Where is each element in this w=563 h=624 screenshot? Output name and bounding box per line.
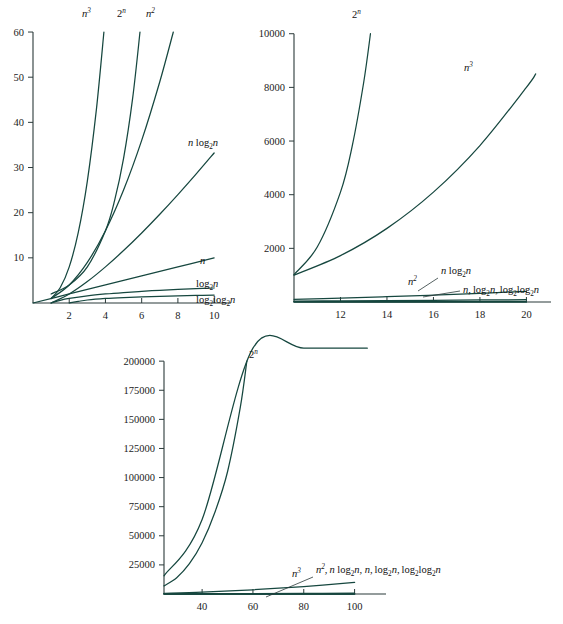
curve-label-n2: n2 bbox=[146, 7, 155, 19]
y-tick-label: 6000 bbox=[264, 136, 285, 147]
y-tick-label: 30 bbox=[14, 162, 25, 173]
y-tick-label: 100000 bbox=[124, 472, 156, 483]
chart-1-axes: 102030405060246810 bbox=[14, 27, 232, 321]
y-tick-label: 10 bbox=[14, 252, 25, 263]
curve-n2 bbox=[51, 32, 173, 298]
x-tick-label: 4 bbox=[103, 310, 109, 321]
y-tick-label: 50000 bbox=[129, 530, 155, 541]
curve-label-nlog2n: nlog2n bbox=[441, 265, 471, 279]
curve-label-group-all: n2,nlog2n, n,log2n,log2log2n bbox=[316, 563, 441, 578]
growth-rate-figure: 102030405060246810 n3 2n n2 nlog2n n log… bbox=[0, 0, 563, 624]
chart-3-curves bbox=[164, 335, 367, 594]
curve-label-group-n-log2n-log2log2n: n,log2n,log2log2n bbox=[463, 284, 539, 298]
curve-label-n3: n3 bbox=[464, 61, 473, 73]
x-tick-label: 100 bbox=[347, 601, 363, 612]
chart-2-axes: 2000400060008000100001214161820 bbox=[259, 28, 551, 320]
curve-n3 bbox=[51, 32, 104, 298]
y-tick-label: 200000 bbox=[124, 356, 156, 367]
y-tick-label: 2000 bbox=[264, 243, 285, 254]
chart-2-svg: 2000400060008000100001214161820 2n n3 n2… bbox=[255, 0, 563, 330]
x-tick-label: 20 bbox=[521, 309, 532, 320]
curve-label-n: n bbox=[200, 255, 205, 266]
curve-2n bbox=[51, 32, 140, 294]
x-tick-label: 10 bbox=[209, 310, 220, 321]
chart-panel-1: 102030405060246810 n3 2n n2 nlog2n n log… bbox=[0, 0, 281, 330]
chart-1-curves bbox=[33, 32, 214, 303]
x-tick-label: 60 bbox=[248, 601, 258, 612]
chart-2-curves bbox=[294, 34, 536, 302]
y-tick-label: 40 bbox=[14, 117, 25, 128]
x-tick-label: 16 bbox=[428, 309, 439, 320]
x-tick-label: 40 bbox=[197, 601, 208, 612]
y-tick-label: 10000 bbox=[259, 28, 285, 39]
y-tick-label: 125000 bbox=[124, 443, 156, 454]
curve-2n bbox=[164, 361, 247, 586]
leader-line-nlog2n bbox=[418, 278, 438, 291]
y-tick-label: 75000 bbox=[129, 501, 155, 512]
curve-label-n3: n3 bbox=[82, 7, 91, 19]
curve-2n bbox=[294, 34, 370, 275]
curve-label-nlog2n: nlog2n bbox=[188, 137, 218, 151]
chart-1-svg: 102030405060246810 n3 2n n2 nlog2n n log… bbox=[0, 0, 281, 330]
curve-label-n2: n2 bbox=[408, 275, 417, 287]
x-tick-label: 6 bbox=[139, 310, 144, 321]
x-tick-label: 12 bbox=[335, 309, 346, 320]
y-tick-label: 150000 bbox=[124, 414, 156, 425]
chart-panel-2: 2000400060008000100001214161820 2n n3 n2… bbox=[255, 0, 563, 330]
y-tick-label: 50 bbox=[14, 72, 25, 83]
curve-label-n3: n3 bbox=[292, 567, 301, 579]
x-tick-label: 8 bbox=[175, 310, 180, 321]
y-tick-label: 60 bbox=[14, 27, 25, 38]
curve-label-2n: 2n bbox=[352, 8, 361, 20]
x-tick-label: 18 bbox=[475, 309, 486, 320]
y-tick-label: 25000 bbox=[129, 559, 155, 570]
y-tick-label: 4000 bbox=[264, 189, 285, 200]
y-tick-label: 8000 bbox=[264, 82, 285, 93]
chart-panel-3: 2500050000750001000001250001500001750002… bbox=[100, 330, 563, 624]
curve-n3 bbox=[294, 74, 536, 275]
x-tick-label: 2 bbox=[67, 310, 72, 321]
y-tick-label: 175000 bbox=[124, 385, 156, 396]
x-tick-label: 14 bbox=[382, 309, 393, 320]
curve-label-2n: 2n bbox=[249, 348, 258, 360]
curve-n3 bbox=[164, 335, 367, 575]
y-tick-label: 20 bbox=[14, 207, 25, 218]
curve-label-log2n: log2n bbox=[196, 278, 218, 292]
curve-label-2n: 2n bbox=[117, 7, 126, 19]
curve-n2 bbox=[164, 582, 355, 593]
x-tick-label: 80 bbox=[299, 601, 310, 612]
curve-label-log2log2n: log2log2n bbox=[196, 294, 235, 308]
chart-3-svg: 2500050000750001000001250001500001750002… bbox=[100, 330, 563, 624]
